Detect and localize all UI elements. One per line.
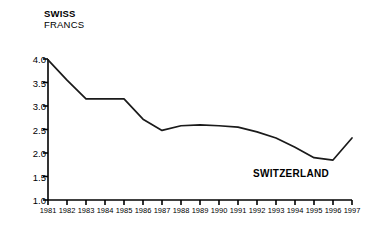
y-axis-tick-label: 4.0 (22, 54, 46, 65)
y-axis-tick-label: 3.0 (22, 101, 46, 112)
chart-container: SWISS FRANCS 4.03.53.02.52.01.51.0 19811… (0, 0, 371, 232)
x-axis-tick-label: 1986 (135, 206, 152, 215)
x-axis-tick-label: 1984 (97, 206, 114, 215)
y-axis-tick-label: 1.5 (22, 171, 46, 182)
y-axis-title-line2: FRANCS (44, 19, 84, 30)
x-axis-tick-label: 1983 (78, 206, 95, 215)
y-axis-tick-label: 3.5 (22, 77, 46, 88)
x-axis-tick-label: 1988 (173, 206, 190, 215)
x-axis-tick-label: 1992 (249, 206, 266, 215)
data-series-line (48, 60, 352, 160)
x-axis-tick-label: 1989 (192, 206, 209, 215)
y-axis-tick-label: 2.5 (22, 124, 46, 135)
x-axis-tick-label: 1991 (230, 206, 247, 215)
x-axis-tick-label: 1987 (154, 206, 171, 215)
y-axis-title: SWISS FRANCS (44, 8, 84, 30)
y-axis-title-line1: SWISS (44, 8, 84, 19)
plot-area (0, 0, 371, 232)
x-axis-tick-label: 1981 (40, 206, 57, 215)
x-axis-tick-label: 1990 (211, 206, 228, 215)
y-axis-tick-label: 1.0 (22, 195, 46, 206)
x-axis-tick-label: 1982 (59, 206, 76, 215)
x-axis-tick-label: 1996 (325, 206, 342, 215)
x-axis-tick-label: 1993 (268, 206, 285, 215)
x-axis-tick-label: 1994 (287, 206, 304, 215)
x-axis-tick-label: 1997 (344, 206, 361, 215)
x-axis-tick-label: 1985 (116, 206, 133, 215)
y-axis-tick-labels: 4.03.53.02.52.01.51.0 (0, 0, 46, 232)
series-label-switzerland: SWITZERLAND (253, 168, 329, 179)
y-axis-tick-label: 2.0 (22, 148, 46, 159)
x-axis-tick-label: 1995 (306, 206, 323, 215)
